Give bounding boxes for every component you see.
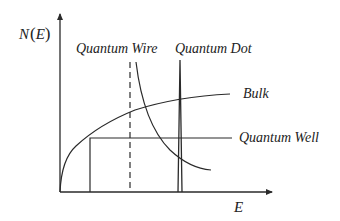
quantum-wire-curve (136, 62, 211, 170)
y-label-func: N (18, 26, 30, 42)
dos-diagram: N(E) E Quantum Wire Quantum Dot Bulk Qua… (0, 0, 340, 221)
quantum-wire-label: Quantum Wire (76, 41, 158, 56)
x-axis-label: E (233, 199, 243, 215)
quantum-well-label: Quantum Well (239, 130, 319, 145)
quantum-dot-spike (178, 60, 182, 192)
quantum-well-step (90, 138, 232, 192)
bulk-curve (60, 94, 230, 192)
quantum-dot-label: Quantum Dot (175, 41, 253, 56)
y-label-close: ) (45, 24, 51, 43)
y-label-var: E (35, 26, 45, 42)
y-axis-label: N(E) (18, 24, 51, 43)
bulk-label: Bulk (243, 86, 269, 101)
